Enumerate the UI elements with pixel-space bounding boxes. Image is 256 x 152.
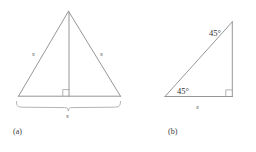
brace-path-a xyxy=(17,102,121,112)
right-angle-marker-b xyxy=(226,90,233,96)
triangle-b-hypotenuse xyxy=(165,22,232,97)
label-a-left-side: s xyxy=(32,51,35,58)
triangle-a-left-side xyxy=(19,11,69,96)
caption-b: (b) xyxy=(168,128,177,136)
label-b-angle-top-right: 45° xyxy=(209,29,221,38)
panel-b-triangle xyxy=(165,22,232,97)
geometry-figure: s s s (a) 45° 45° s (b) xyxy=(0,0,256,152)
label-b-base: s xyxy=(196,104,199,111)
diagram-canvas xyxy=(0,0,256,152)
label-b-angle-bottom-left: 45° xyxy=(177,87,189,96)
triangle-a-right-side xyxy=(69,11,121,96)
right-angle-marker-a xyxy=(63,90,69,96)
panel-a-base-brace xyxy=(17,102,121,112)
caption-a: (a) xyxy=(13,128,22,136)
label-a-right-side: s xyxy=(100,51,103,58)
label-a-base: s xyxy=(66,113,69,120)
